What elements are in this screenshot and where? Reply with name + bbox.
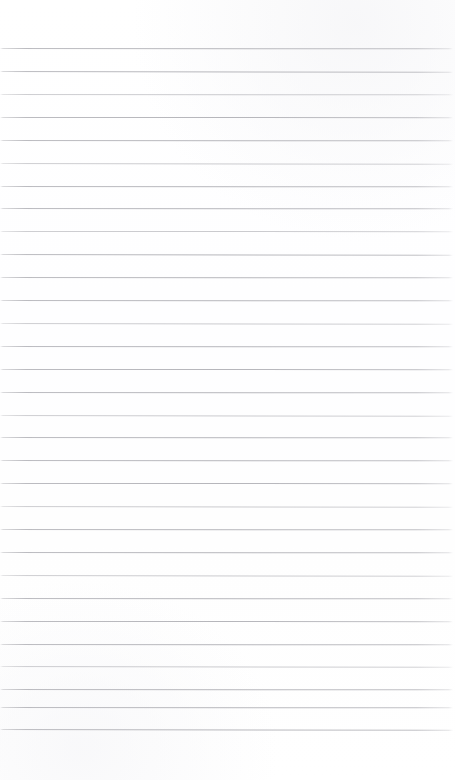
ruled-line bbox=[0, 666, 453, 668]
ruled-line bbox=[0, 460, 453, 461]
ruled-line bbox=[0, 48, 453, 49]
ruled-line bbox=[0, 140, 453, 141]
ruled-line bbox=[0, 277, 453, 278]
ruled-line bbox=[0, 644, 453, 645]
ruled-line bbox=[0, 94, 453, 95]
ruled-line bbox=[0, 707, 453, 708]
ruled-line bbox=[0, 392, 453, 393]
ruled-line bbox=[0, 208, 453, 209]
ruled-line bbox=[0, 117, 453, 118]
ruled-line bbox=[0, 163, 453, 165]
ruled-line bbox=[0, 71, 453, 73]
ruled-line bbox=[0, 415, 453, 417]
ruled-lines-group bbox=[0, 0, 455, 780]
ruled-line bbox=[0, 483, 453, 484]
ruled-line bbox=[0, 437, 453, 438]
ruled-line bbox=[0, 231, 453, 232]
ruled-line bbox=[0, 729, 453, 731]
ruled-line bbox=[0, 186, 453, 187]
ruled-line bbox=[0, 300, 453, 301]
ruled-line bbox=[0, 689, 453, 690]
ruled-line bbox=[0, 575, 453, 577]
ruled-line bbox=[0, 598, 453, 599]
ruled-line bbox=[0, 369, 453, 370]
ruled-line bbox=[0, 254, 453, 256]
ruled-line bbox=[0, 323, 453, 325]
ruled-line bbox=[0, 506, 453, 508]
ruled-line bbox=[0, 529, 453, 530]
ruled-paper-page bbox=[0, 0, 455, 780]
ruled-line bbox=[0, 621, 453, 622]
ruled-line bbox=[0, 346, 453, 347]
ruled-line bbox=[0, 552, 453, 553]
